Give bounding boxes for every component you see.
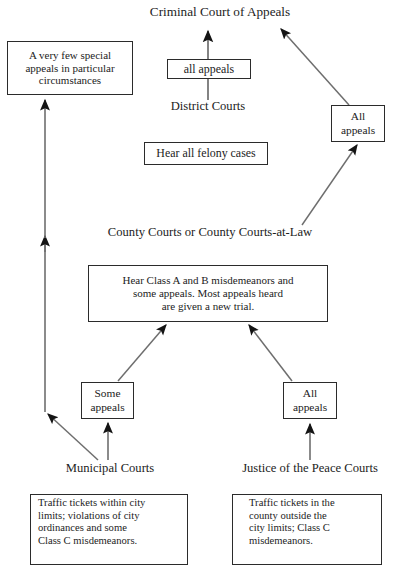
jp-jurisdiction-line-2: county outside the: [249, 510, 327, 523]
edge-some-appeals-to-county-box: [118, 325, 166, 381]
some-appeals-municipal-box: Some appeals: [81, 382, 134, 419]
special-appeals-line-2: appeals in particular: [25, 62, 114, 75]
municipal-jurisdiction-box: Traffic tickets within city limits; viol…: [30, 494, 188, 565]
all-appeals-jp-line-1: All: [303, 387, 318, 400]
municipal-courts-label: Municipal Courts: [40, 462, 180, 476]
criminal-court-of-appeals-label: Criminal Court of Appeals: [120, 5, 320, 20]
district-courts-label: District Courts: [148, 100, 268, 114]
misdemeanors-line-3: are given a new trial.: [162, 300, 255, 313]
edge-county-to-allappeals: [302, 145, 357, 225]
jp-jurisdiction-line-1: Traffic tickets in the: [249, 497, 335, 510]
edge-municipal-to-spine: [48, 414, 98, 460]
all-appeals-jp-box: All appeals: [283, 382, 337, 419]
misdemeanors-line-1: Hear Class A and B misdemeanors and: [122, 274, 293, 287]
jp-jurisdiction-line-4: misdemeanors.: [249, 535, 313, 548]
all-appeals-district-box: all appeals: [167, 59, 251, 79]
edge-jp-allappeals-to-county-box: [249, 325, 292, 381]
justice-of-the-peace-courts-label: Justice of the Peace Courts: [227, 462, 393, 476]
misdemeanors-box: Hear Class A and B misdemeanors and some…: [88, 265, 328, 322]
some-appeals-line-2: appeals: [90, 401, 124, 414]
special-appeals-line-1: A very few special: [29, 49, 111, 62]
jp-jurisdiction-box: Traffic tickets in the county outside th…: [232, 494, 382, 565]
felony-cases-box: Hear all felony cases: [144, 142, 268, 165]
municipal-jurisdiction-line-1: Traffic tickets within city: [38, 497, 145, 510]
all-appeals-jp-line-2: appeals: [293, 401, 327, 414]
municipal-jurisdiction-line-4: Class C misdemeanors.: [38, 535, 137, 548]
all-appeals-county-line-2: appeals: [341, 124, 375, 137]
municipal-jurisdiction-line-2: limits; violations of city: [38, 510, 140, 523]
all-appeals-county-box: All appeals: [331, 105, 385, 142]
some-appeals-line-1: Some: [95, 387, 121, 400]
court-system-diagram: Criminal Court of Appeals A very few spe…: [0, 0, 398, 576]
felony-cases-label: Hear all felony cases: [156, 146, 255, 160]
jp-jurisdiction-line-3: city limits; Class C: [249, 522, 330, 535]
special-appeals-line-3: circumstances: [39, 74, 101, 87]
municipal-jurisdiction-line-3: ordinances and some: [38, 522, 127, 535]
all-appeals-district-label: all appeals: [184, 62, 235, 76]
misdemeanors-line-2: some appeals. Most appeals heard: [133, 287, 283, 300]
all-appeals-county-line-1: All: [351, 110, 366, 123]
county-courts-label: County Courts or County Courts-at-Law: [80, 226, 340, 240]
special-appeals-box: A very few special appeals in particular…: [7, 41, 133, 95]
edge-county-allappeals-to-criminal-court: [281, 29, 349, 105]
